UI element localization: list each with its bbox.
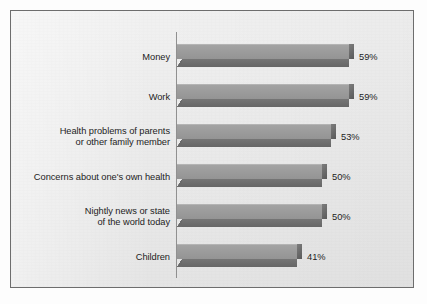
category-label: Work — [0, 92, 170, 103]
category-label-line: Money — [0, 52, 170, 63]
chart-plot-area: Money 59% Work 59% Hea — [10, 10, 414, 288]
bar-end-cap — [297, 244, 302, 259]
category-label: Concerns about one's own health — [0, 172, 170, 183]
bar-top-face — [177, 164, 322, 179]
chart-screenshot: Money 59% Work 59% Hea — [0, 0, 427, 304]
bar-top-face — [177, 204, 322, 219]
bar-value-label: 53% — [341, 132, 360, 142]
bar-front-face — [182, 219, 322, 227]
bar-work — [177, 84, 349, 110]
bar-row: Concerns about one's own health 50% — [10, 162, 414, 192]
bar-top-face — [177, 84, 349, 99]
bar-row: Health problems of parents or other fami… — [10, 122, 414, 152]
bar-top-face — [177, 124, 331, 139]
bar-row: Money 59% — [10, 42, 414, 72]
bar-left-notch — [177, 259, 182, 267]
bar-top-face — [177, 244, 297, 259]
bar-children — [177, 244, 297, 270]
bar-health-problems-family — [177, 124, 331, 150]
bar-front-face — [182, 139, 331, 147]
category-label: Money — [0, 52, 170, 63]
bar-row: Children 41% — [10, 242, 414, 272]
category-label-line: Concerns about one's own health — [0, 172, 170, 183]
bar-left-notch — [177, 59, 182, 67]
bar-top-face — [177, 44, 349, 59]
bar-own-health — [177, 164, 322, 190]
category-label: Health problems of parents or other fami… — [0, 126, 170, 147]
bar-left-notch — [177, 99, 182, 107]
bar-end-cap — [322, 204, 327, 219]
bar-money — [177, 44, 349, 70]
category-label-line: Children — [0, 252, 170, 263]
category-label-line: or other family member — [0, 137, 170, 148]
category-label-line: Health problems of parents — [0, 126, 170, 137]
bar-row: Work 59% — [10, 82, 414, 112]
bar-nightly-news — [177, 204, 322, 230]
bar-front-face — [182, 179, 322, 187]
bar-front-face — [182, 259, 297, 267]
bar-end-cap — [322, 164, 327, 179]
bar-value-label: 59% — [359, 92, 378, 102]
bar-left-notch — [177, 139, 182, 147]
bar-value-label: 59% — [359, 52, 378, 62]
bar-front-face — [182, 59, 349, 67]
bar-end-cap — [349, 84, 354, 99]
category-label-line: Work — [0, 92, 170, 103]
category-label: Nightly news or state of the world today — [0, 206, 170, 227]
bar-value-label: 50% — [332, 212, 351, 222]
category-label-line: Nightly news or state — [0, 206, 170, 217]
bar-end-cap — [331, 124, 336, 139]
bar-row: Nightly news or state of the world today… — [10, 202, 414, 232]
category-label-line: of the world today — [0, 217, 170, 228]
bar-left-notch — [177, 179, 182, 187]
bar-value-label: 41% — [307, 252, 326, 262]
category-label: Children — [0, 252, 170, 263]
bar-value-label: 50% — [332, 172, 351, 182]
bar-front-face — [182, 99, 349, 107]
bar-left-notch — [177, 219, 182, 227]
bar-end-cap — [349, 44, 354, 59]
